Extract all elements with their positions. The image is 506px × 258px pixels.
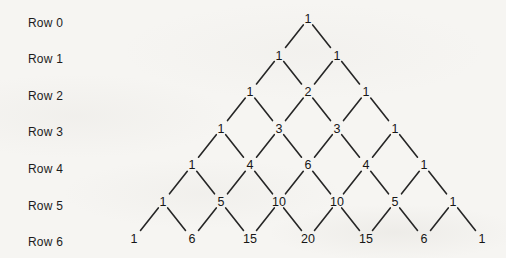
triangle-value: 6: [305, 158, 312, 172]
connector-line: [257, 62, 275, 85]
connector-line: [315, 208, 333, 231]
connector-line: [315, 135, 333, 158]
connector-line: [226, 208, 244, 231]
connector-line: [284, 62, 302, 85]
row-label: Row 1: [28, 52, 63, 66]
connector-line: [373, 208, 391, 231]
connector-line: [313, 98, 331, 121]
connector-line: [257, 135, 275, 158]
triangle-value: 15: [243, 232, 257, 246]
connector-line: [313, 171, 331, 194]
triangle-value: 2: [305, 85, 312, 99]
triangle-value: 10: [330, 195, 344, 209]
connector-line: [342, 208, 360, 231]
pascals-triangle-figure: Row 0Row 1Row 2Row 3Row 4Row 5Row 6 1111…: [0, 0, 506, 258]
connector-lines: [0, 0, 506, 258]
row-label: Row 5: [28, 199, 63, 213]
connector-line: [344, 98, 362, 121]
triangle-value: 5: [218, 195, 225, 209]
connector-line: [286, 171, 304, 194]
connector-line: [228, 171, 246, 194]
connector-line: [286, 98, 304, 121]
triangle-value: 1: [363, 85, 370, 99]
row-label: Row 3: [28, 125, 63, 139]
row-label: Row 2: [28, 89, 63, 103]
connector-line: [371, 171, 389, 194]
connector-line: [199, 208, 217, 231]
connector-line: [313, 25, 331, 48]
triangle-value: 4: [247, 158, 254, 172]
triangle-value: 1: [189, 158, 196, 172]
connector-line: [431, 208, 449, 231]
connector-line: [199, 135, 217, 158]
connector-line: [400, 208, 418, 231]
triangle-value: 15: [359, 232, 373, 246]
connector-line: [344, 171, 362, 194]
triangle-value: 1: [421, 158, 428, 172]
connector-line: [257, 208, 275, 231]
triangle-value: 3: [334, 122, 341, 136]
triangle-value: 3: [276, 122, 283, 136]
triangle-value: 1: [392, 122, 399, 136]
connector-line: [197, 171, 215, 194]
triangle-value: 6: [189, 232, 196, 246]
connector-line: [342, 62, 360, 85]
row-label: Row 6: [28, 235, 63, 249]
connector-line: [402, 171, 420, 194]
connector-line: [342, 135, 360, 158]
triangle-value: 1: [334, 49, 341, 63]
triangle-value: 4: [363, 158, 370, 172]
connector-line: [284, 135, 302, 158]
triangle-value: 1: [450, 195, 457, 209]
connector-line: [400, 135, 418, 158]
connector-line: [226, 135, 244, 158]
triangle-value: 1: [247, 85, 254, 99]
triangle-value: 1: [131, 232, 138, 246]
connector-line: [141, 208, 159, 231]
triangle-value: 5: [392, 195, 399, 209]
connector-line: [284, 208, 302, 231]
connector-line: [458, 208, 476, 231]
connector-line: [371, 98, 389, 121]
connector-line: [286, 25, 304, 48]
connector-line: [429, 171, 447, 194]
connector-line: [170, 171, 188, 194]
connector-line: [315, 62, 333, 85]
triangle-value: 1: [479, 232, 486, 246]
row-label: Row 4: [28, 162, 63, 176]
connector-line: [255, 171, 273, 194]
triangle-value: 6: [421, 232, 428, 246]
triangle-value: 1: [305, 12, 312, 26]
connector-line: [255, 98, 273, 121]
triangle-value: 1: [218, 122, 225, 136]
row-label: Row 0: [28, 16, 63, 30]
connector-line: [168, 208, 186, 231]
triangle-value: 10: [272, 195, 286, 209]
triangle-value: 1: [276, 49, 283, 63]
connector-line: [228, 98, 246, 121]
connector-line: [373, 135, 391, 158]
triangle-value: 1: [160, 195, 167, 209]
triangle-value: 20: [301, 232, 315, 246]
